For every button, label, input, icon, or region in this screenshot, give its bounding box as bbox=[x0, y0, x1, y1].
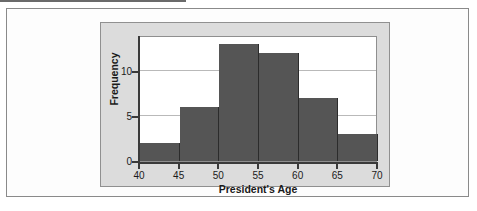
y-tick-label: 0 bbox=[108, 157, 132, 167]
x-tick-label: 60 bbox=[283, 170, 313, 181]
x-tick-mark bbox=[138, 164, 140, 169]
y-tick-mark bbox=[132, 116, 138, 118]
x-tick-label: 45 bbox=[164, 170, 194, 181]
histogram-bar bbox=[338, 134, 378, 161]
x-tick-label: 55 bbox=[243, 170, 273, 181]
x-tick-mark bbox=[217, 164, 219, 169]
plot-area bbox=[139, 36, 377, 162]
plot-inner bbox=[140, 37, 376, 161]
x-tick-label: 40 bbox=[124, 170, 154, 181]
y-tick-label: 10 bbox=[108, 67, 132, 77]
x-tick-mark bbox=[257, 164, 259, 169]
histogram-bar bbox=[140, 143, 180, 161]
x-tick-label: 50 bbox=[203, 170, 233, 181]
y-tick-label: 5 bbox=[108, 112, 132, 122]
histogram-bar bbox=[259, 53, 299, 161]
histogram-bar bbox=[299, 98, 339, 161]
y-tick-mark bbox=[132, 71, 138, 73]
figure-card: Frequency 0510 President's Age 404550556… bbox=[6, 8, 469, 197]
top-cropped-rule bbox=[0, 0, 186, 2]
x-tick-mark bbox=[376, 164, 378, 169]
x-tick-label: 70 bbox=[362, 170, 392, 181]
x-axis-title: President's Age bbox=[139, 183, 377, 195]
x-tick-mark bbox=[178, 164, 180, 169]
y-tick-mark bbox=[132, 161, 138, 163]
y-axis-ticks: 0510 bbox=[101, 36, 132, 162]
histogram-bar bbox=[180, 107, 220, 161]
histogram-chart-panel: Frequency 0510 President's Age 404550556… bbox=[100, 22, 390, 187]
y-axis-line bbox=[138, 36, 140, 163]
x-tick-mark bbox=[297, 164, 299, 169]
x-tick-mark bbox=[336, 164, 338, 169]
x-tick-label: 65 bbox=[322, 170, 352, 181]
histogram-bar bbox=[219, 44, 259, 161]
